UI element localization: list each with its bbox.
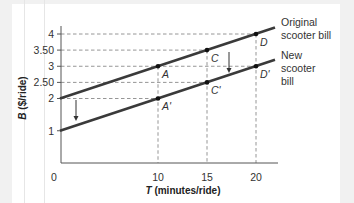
y-tick-1: 1 (48, 125, 54, 137)
label-c-prime: C' (211, 84, 222, 96)
point-a (156, 64, 161, 69)
label-a: A (161, 68, 169, 80)
y-tick-2.50: 2.50 (34, 76, 55, 88)
y-axis-var: B (17, 112, 28, 119)
x-tick-labels: 0 10 15 20 (51, 171, 262, 183)
x-axis-var: T (145, 185, 152, 196)
y-tick-3: 3 (48, 60, 54, 72)
label-a-prime: A' (161, 100, 172, 112)
y-tick-3.50: 3.50 (34, 44, 55, 56)
x-tick-0: 0 (51, 171, 57, 183)
y-axis-title: B ($/ride) (17, 76, 28, 119)
legend: Original scooter bill New scooter bill (281, 16, 331, 87)
legend-new-line2: scooter (281, 62, 316, 74)
point-d-prime (254, 64, 259, 69)
x-tick-15: 15 (201, 171, 213, 183)
legend-original-line2: scooter bill (281, 29, 331, 41)
y-axis-unit: ($/ride) (17, 76, 28, 109)
legend-new-line1: New (281, 49, 302, 61)
legend-original-line1: Original (281, 16, 317, 28)
label-d: D (260, 36, 268, 48)
legend-new-line3: bill (281, 75, 294, 87)
x-tick-10: 10 (152, 171, 164, 183)
original-bill-line (60, 28, 275, 99)
label-d-prime: D' (260, 68, 271, 80)
chart: A C D A' C' D' 4 3.50 3 2.50 2 1 0 10 15… (0, 0, 354, 203)
x-axis-title: T (minutes/ride) (145, 185, 220, 196)
x-axis-unit: (minutes/ride) (154, 185, 220, 196)
point-a-prime (156, 96, 161, 101)
y-tick-4: 4 (48, 28, 54, 40)
point-c-prime (205, 80, 210, 85)
y-tick-labels: 4 3.50 3 2.50 2 1 (34, 28, 55, 137)
point-d (254, 32, 259, 37)
x-tick-20: 20 (250, 171, 262, 183)
label-c: C (211, 52, 219, 64)
point-c (205, 48, 210, 53)
y-tick-2: 2 (48, 92, 54, 104)
